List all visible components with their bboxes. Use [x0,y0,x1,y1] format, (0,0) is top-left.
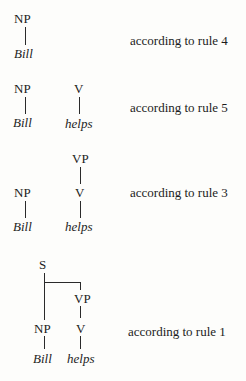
vp-node: VP [74,292,91,305]
rule-label: according to rule 3 [130,186,228,199]
word-bill: Bill [14,47,33,60]
word-bill: Bill [13,116,32,129]
np-node: NP [14,12,31,25]
rule-label: according to rule 1 [128,325,226,338]
branch-line [80,201,81,218]
rule-label: according to rule 5 [130,101,228,114]
branch-line [79,97,80,114]
s-node: S [39,258,46,271]
rule-label: according to rule 4 [130,34,228,47]
branch-line [80,167,81,184]
word-helps: helps [67,352,94,365]
branch-line [44,273,45,320]
branch-line [80,336,81,349]
vp-node: VP [72,152,89,165]
word-helps: helps [65,220,92,233]
np-node: NP [14,82,31,95]
branch-line [25,97,26,114]
word-helps: helps [65,117,92,130]
branch-line [44,282,81,283]
branch-line [44,336,45,349]
branch-line [25,201,26,218]
branch-line [25,27,26,45]
word-bill: Bill [33,352,52,365]
branch-line [80,282,81,290]
np-node: NP [34,322,51,335]
branch-line [80,306,81,318]
v-node: V [74,82,83,95]
np-node: NP [14,186,31,199]
v-node: V [76,322,85,335]
word-bill: Bill [13,220,32,233]
v-node: V [75,186,84,199]
